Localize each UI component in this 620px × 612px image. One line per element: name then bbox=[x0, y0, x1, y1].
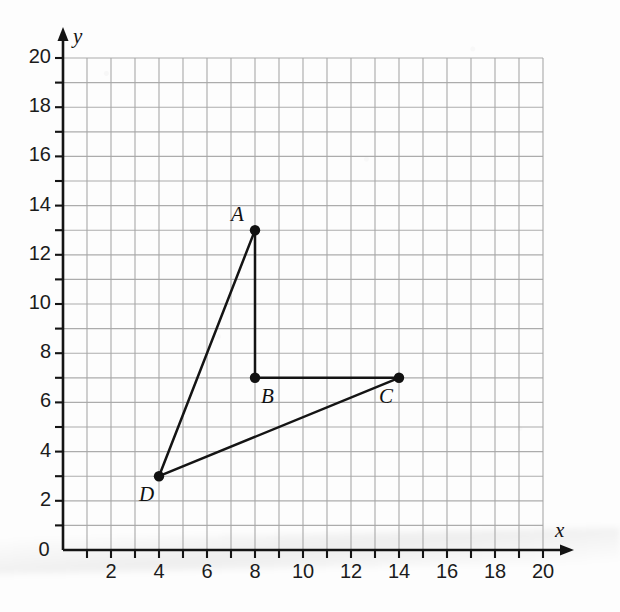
y-tick-label: 2 bbox=[11, 488, 51, 511]
y-tick-label: 8 bbox=[11, 340, 51, 363]
x-tick-label: 18 bbox=[481, 560, 509, 583]
y-tick-label: 16 bbox=[11, 143, 51, 166]
point-label-c: C bbox=[379, 384, 393, 409]
y-axis-label: y bbox=[73, 24, 82, 49]
x-tick-label: 8 bbox=[241, 560, 269, 583]
y-tick-label: 20 bbox=[11, 45, 51, 68]
x-tick-label: 14 bbox=[385, 560, 413, 583]
x-tick-label: 6 bbox=[193, 560, 221, 583]
y-tick-label: 18 bbox=[11, 94, 51, 117]
axis-ticks bbox=[55, 58, 543, 558]
x-tick-label: 12 bbox=[337, 560, 365, 583]
y-tick-label: 10 bbox=[11, 291, 51, 314]
y-tick-label: 14 bbox=[11, 193, 51, 216]
gridlines bbox=[63, 58, 543, 550]
x-axis-label: x bbox=[555, 518, 564, 543]
x-tick-label: 4 bbox=[145, 560, 173, 583]
x-tick-label: 2 bbox=[97, 560, 125, 583]
y-tick-label: 6 bbox=[11, 389, 51, 412]
x-tick-label: 10 bbox=[289, 560, 317, 583]
x-tick-label: 16 bbox=[433, 560, 461, 583]
x-tick-label: 0 bbox=[30, 538, 58, 561]
point-label-d: D bbox=[139, 482, 154, 507]
y-tick-label: 12 bbox=[11, 242, 51, 265]
point-label-a: A bbox=[231, 202, 244, 227]
x-tick-label: 20 bbox=[529, 560, 557, 583]
point-label-b: B bbox=[261, 384, 274, 409]
y-tick-label: 4 bbox=[11, 439, 51, 462]
